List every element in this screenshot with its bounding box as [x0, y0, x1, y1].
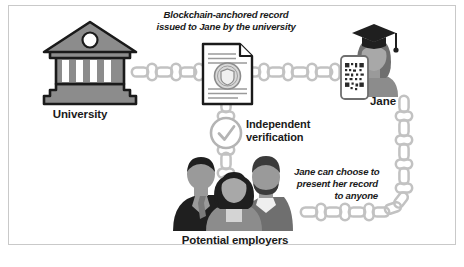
diagram-figure: Blockchain-anchored record issued to Jan… — [0, 0, 464, 267]
diagram-canvas — [0, 0, 464, 267]
jane-label: Jane — [357, 95, 409, 108]
employers-icon — [173, 156, 293, 231]
chain-record-to-jane — [244, 64, 340, 80]
record-document-icon — [203, 44, 252, 104]
sharing-caption: Jane can choose to present her record to… — [294, 166, 378, 202]
chain-university-to-record — [132, 64, 204, 80]
independent-verification-icon — [211, 118, 241, 148]
record-caption: Blockchain-anchored record issued to Jan… — [156, 9, 296, 33]
verification-label: Independent verification — [246, 118, 326, 144]
university-label: University — [0, 108, 160, 121]
employers-label: Potential employers — [160, 234, 310, 247]
phone-qr-code-icon — [341, 56, 368, 99]
university-icon — [44, 22, 136, 104]
